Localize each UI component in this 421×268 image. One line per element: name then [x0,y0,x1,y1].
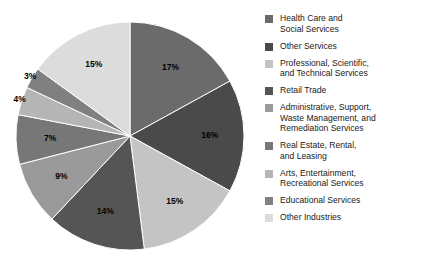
pie-slice-value-label: 14% [97,206,114,216]
legend-item[interactable]: Health Care and Social Services [265,13,417,34]
chart-legend: Health Care and Social ServicesOther Ser… [265,13,417,229]
legend-item[interactable]: Administrative, Support, Waste Managemen… [265,102,417,134]
legend-item-label: Other Industries [280,212,341,223]
legend-item-label: Professional, Scientific, and Technical … [280,58,369,79]
legend-item-label: Real Estate, Rental, and Leasing [280,140,356,161]
pie-chart-figure: 17%16%15%14%9%7%4%3%15% Health Care and … [0,0,421,268]
legend-item-label: Health Care and Social Services [280,13,343,34]
legend-item-label: Other Services [280,41,337,52]
legend-swatch-icon [265,170,273,178]
pie-slice-value-label: 7% [44,133,57,143]
pie-svg: 17%16%15%14%9%7%4%3%15% [0,0,252,268]
legend-item[interactable]: Other Services [265,41,417,52]
legend-swatch-icon [265,15,273,23]
legend-item[interactable]: Arts, Entertainment, Recreational Servic… [265,168,417,189]
pie-slice-value-label: 9% [55,171,68,181]
legend-swatch-icon [265,104,273,112]
legend-swatch-icon [265,87,273,95]
legend-item-label: Arts, Entertainment, Recreational Servic… [280,168,364,189]
legend-item[interactable]: Professional, Scientific, and Technical … [265,58,417,79]
legend-item[interactable]: Real Estate, Rental, and Leasing [265,140,417,161]
legend-item-label: Administrative, Support, Waste Managemen… [280,102,376,134]
pie-slice-value-label: 16% [201,130,218,140]
pie-plot-area: 17%16%15%14%9%7%4%3%15% [0,0,252,268]
pie-slice-value-label: 15% [85,59,102,69]
legend-swatch-icon [265,142,273,150]
legend-item[interactable]: Other Industries [265,212,417,223]
legend-item-label: Educational Services [280,195,360,206]
pie-slice-value-label: 15% [166,196,183,206]
legend-swatch-icon [265,43,273,51]
pie-slice-value-label: 17% [162,62,179,72]
legend-swatch-icon [265,197,273,205]
legend-item[interactable]: Retail Trade [265,85,417,96]
legend-item[interactable]: Educational Services [265,195,417,206]
pie-slice-value-label: 4% [14,94,27,104]
pie-slice-value-label: 3% [24,71,37,81]
legend-swatch-icon [265,214,273,222]
legend-item-label: Retail Trade [280,85,326,96]
legend-swatch-icon [265,60,273,68]
